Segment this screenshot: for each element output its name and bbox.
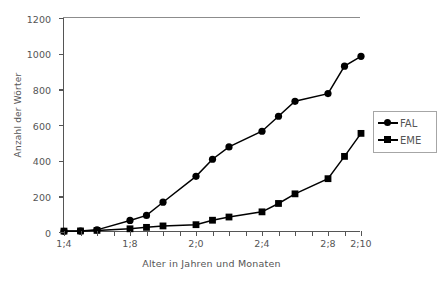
legend-label-fal: FAL	[400, 118, 417, 129]
x-axis-tick	[147, 231, 148, 236]
x-axis-tick	[312, 231, 313, 236]
x-axis-tick-label: 1;8	[122, 238, 137, 249]
x-axis-tick	[246, 231, 247, 236]
legend-line-fal	[378, 118, 398, 128]
x-axis-tick	[180, 231, 181, 236]
x-axis-tick-label: 2;10	[350, 238, 371, 249]
data-point-fal	[126, 217, 133, 224]
circle-marker-icon	[384, 119, 391, 126]
x-axis-tick	[361, 231, 362, 236]
legend-label-eme: EME	[400, 135, 421, 146]
data-point-fal	[143, 212, 150, 219]
square-marker-icon	[384, 136, 391, 143]
x-axis-tick	[81, 231, 82, 236]
data-point-fal	[291, 98, 298, 105]
data-point-fal	[209, 156, 216, 163]
series-line-eme	[64, 133, 361, 231]
data-point-eme	[325, 175, 332, 182]
x-axis-tick	[262, 231, 263, 236]
data-point-fal	[225, 143, 232, 150]
y-axis-tick-label: 400	[33, 156, 51, 167]
data-point-fal	[258, 128, 265, 135]
data-point-eme	[259, 208, 266, 215]
y-axis-tick-label: 200	[33, 192, 51, 203]
y-axis-tick-label: 1000	[27, 49, 51, 60]
legend-line-eme	[378, 135, 398, 145]
legend-entry-eme: EME	[378, 133, 421, 147]
y-axis-tick: 600	[59, 125, 64, 126]
x-axis-tick-label: 2;4	[254, 238, 269, 249]
x-axis-tick	[114, 231, 115, 236]
data-point-fal	[192, 173, 199, 180]
data-point-fal	[159, 199, 166, 206]
series-layer	[64, 18, 361, 232]
series-line-fal	[64, 56, 361, 231]
data-point-eme	[209, 217, 216, 224]
line-chart-figure: Anzahl der Wörter 0200400600800100012001…	[0, 0, 442, 281]
data-point-eme	[226, 214, 233, 221]
data-point-eme	[160, 223, 167, 230]
y-axis-tick: 400	[59, 161, 64, 162]
x-axis-tick	[328, 231, 329, 236]
y-axis-tick-label: 1200	[27, 13, 51, 24]
y-axis-tick-label: 800	[33, 85, 51, 96]
x-axis-tick-label: 2;8	[320, 238, 335, 249]
x-axis-tick	[97, 231, 98, 236]
x-axis-tick	[229, 231, 230, 236]
y-axis-tick: 200	[59, 196, 64, 197]
x-axis-tick	[130, 231, 131, 236]
data-point-eme	[292, 190, 299, 197]
y-axis-tick-label: 0	[45, 227, 51, 238]
data-point-eme	[341, 153, 348, 160]
y-axis-tick: 1000	[59, 54, 64, 55]
x-axis-tick-label: 1;4	[56, 238, 71, 249]
data-point-fal	[275, 113, 282, 120]
data-point-fal	[357, 53, 364, 60]
y-axis-tick: 1200	[59, 18, 64, 19]
data-point-eme	[193, 221, 200, 228]
x-axis-tick	[279, 231, 280, 236]
x-axis-tick	[196, 231, 197, 236]
data-point-eme	[275, 200, 282, 207]
data-point-fal	[341, 63, 348, 70]
data-point-eme	[358, 130, 365, 137]
x-axis-tick-label: 2;0	[188, 238, 203, 249]
data-point-eme	[143, 224, 150, 231]
legend-entry-fal: FAL	[378, 116, 417, 130]
data-point-fal	[324, 90, 331, 97]
plot-area: 0200400600800100012001;41;82;02;42;82;10	[63, 18, 360, 232]
chart-legend: FAL EME	[373, 111, 437, 153]
x-axis-tick	[295, 231, 296, 236]
x-axis-tick	[213, 231, 214, 236]
y-axis-tick: 800	[59, 89, 64, 90]
x-axis-tick	[163, 231, 164, 236]
x-axis-tick	[345, 231, 346, 236]
y-axis-title: Anzahl der Wörter	[13, 35, 23, 195]
y-axis-tick-label: 600	[33, 120, 51, 131]
x-axis-title: Alter in Jahren und Monaten	[63, 258, 360, 269]
x-axis-tick	[64, 231, 65, 236]
